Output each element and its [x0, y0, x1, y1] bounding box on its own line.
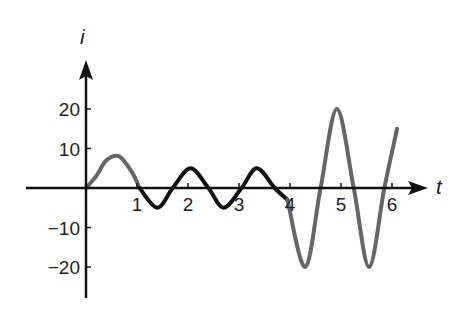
y-tick-label: 10: [59, 139, 80, 160]
y-tick-label: −10: [48, 218, 80, 239]
x-tick-label: 1: [132, 194, 143, 215]
chart: 123456 2010−10−20 i t: [0, 0, 468, 316]
series-line: [86, 156, 140, 188]
x-tick-label: 6: [387, 194, 398, 215]
y-tick-label: −20: [48, 257, 80, 278]
y-axis-label: i: [80, 25, 86, 48]
x-tick-label: 4: [285, 194, 296, 215]
x-tick-label: 3: [234, 194, 245, 215]
x-tick-label: 2: [183, 194, 194, 215]
x-tick-label: 5: [336, 194, 347, 215]
y-tick-label: 20: [59, 99, 80, 120]
y-axis: [79, 60, 93, 298]
x-axis-label: t: [436, 175, 443, 198]
